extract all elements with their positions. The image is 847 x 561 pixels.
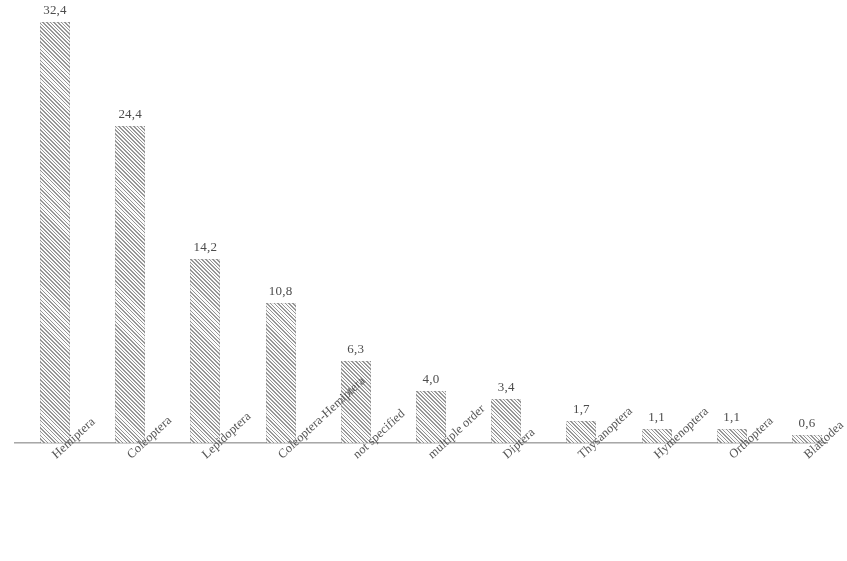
bar-value-label: 3,4 [478, 379, 534, 395]
bar-value-label: 4,0 [403, 371, 459, 387]
bar-value-label: 32,4 [27, 2, 83, 18]
bar-value-label: 1,1 [629, 409, 685, 425]
bar [266, 303, 296, 443]
bar-value-label: 14,2 [177, 239, 233, 255]
bar [115, 126, 145, 443]
bar-value-label: 6,3 [328, 341, 384, 357]
bar [190, 259, 220, 443]
bar-value-label: 1,1 [704, 409, 760, 425]
bar-value-label: 24,4 [102, 106, 158, 122]
bar-value-label: 1,7 [553, 401, 609, 417]
bar-value-label: 10,8 [253, 283, 309, 299]
plot-area: 32,424,414,210,86,34,03,41,71,11,10,6 [0, 0, 830, 443]
bar [40, 22, 70, 443]
